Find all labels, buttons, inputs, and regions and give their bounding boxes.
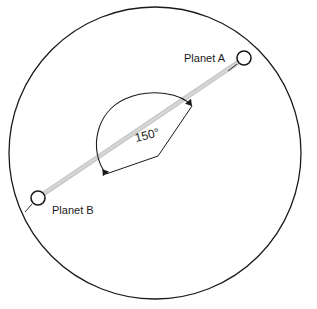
line-of-sight-band-core [40,60,242,196]
planet-b-label: Planet B [52,204,94,216]
planet-b-marker [31,191,45,205]
orbital-diagram: 150° Planet A Planet B [0,0,317,309]
orbit-circle [9,7,301,299]
planet-a-label: Planet A [184,52,226,64]
planet-a-marker [237,51,251,65]
planet-b-leader-line [25,204,32,212]
figure-canvas: 150° Planet A Planet B [0,0,317,309]
angle-leg-lower [106,156,158,174]
